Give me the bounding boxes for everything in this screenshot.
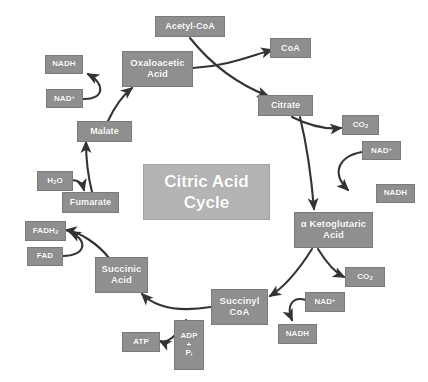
node-label: CoA xyxy=(281,43,300,53)
node-label: OxaloaceticAcid xyxy=(130,58,184,79)
node-nadh-ketoglut: NADH xyxy=(376,184,415,203)
node-label: SuccinicAcid xyxy=(102,264,142,285)
arrow-acetyl-to-citrate xyxy=(190,38,268,96)
arrow-ketoglut-to-succinyl xyxy=(270,249,312,296)
node-nadh-malate: NADH xyxy=(45,55,83,74)
node-label: CO2 xyxy=(353,121,369,130)
node-atp: ATP xyxy=(122,332,160,352)
node-label: H2O xyxy=(47,177,63,186)
node-fad: FAD xyxy=(27,247,63,266)
node-nad-ketoglut: NAD+ xyxy=(362,141,401,160)
arrow-ketoglut-to-co2 xyxy=(318,249,344,277)
arrow-citrate-to-co2 xyxy=(292,117,341,128)
node-label: NAD+ xyxy=(371,146,392,156)
arrow-succinic-to-fadh2 xyxy=(66,230,109,258)
node-label: FAD xyxy=(37,252,53,261)
node-label: ADP+Pi xyxy=(180,332,197,359)
arrow-fumarate-to-malate xyxy=(86,142,92,192)
arrow-succinyl-to-succinic xyxy=(142,294,211,309)
cycle-title: Citric Acid Cycle xyxy=(143,164,270,220)
node-succinic-acid: SuccinicAcid xyxy=(95,257,148,293)
node-adp-pi: ADP+Pi xyxy=(174,320,204,370)
node-fumarate: Fumarate xyxy=(62,192,119,213)
arrow-nad-to-nadh-right xyxy=(339,152,362,190)
node-succinyl-coa: SuccinylCoA xyxy=(211,289,268,325)
node-label: α KetoglutaricAcid xyxy=(301,219,366,240)
node-nadh-succinyl: NADH xyxy=(278,324,317,344)
node-label: NADH xyxy=(286,330,310,339)
node-nad-malate: NAD+ xyxy=(46,89,83,108)
node-h2o: H2O xyxy=(37,171,73,191)
node-acetyl-coa: Acetyl-CoA xyxy=(155,16,225,37)
arrow-malate-to-oxaloacetic xyxy=(108,88,132,121)
arrow-nad-to-nadh-bottom xyxy=(290,299,306,320)
node-label: Citrate xyxy=(271,100,300,110)
arrow-oxaloacetic-to-coa xyxy=(193,50,272,68)
node-label: NADH xyxy=(384,189,408,198)
node-citrate: Citrate xyxy=(258,95,313,116)
node-co2-succinyl: CO2 xyxy=(345,267,385,287)
node-label: Acetyl-CoA xyxy=(165,21,215,31)
node-label: Fumarate xyxy=(70,197,111,207)
node-label: NAD+ xyxy=(54,94,75,104)
node-label: Malate xyxy=(90,126,119,136)
node-label: SuccinylCoA xyxy=(220,296,260,317)
node-fadh2: FADH2 xyxy=(25,221,66,241)
node-co2-isocitrate: CO2 xyxy=(342,115,379,135)
node-alpha-ketoglut: α KetoglutaricAcid xyxy=(294,212,373,248)
citric-acid-cycle-diagram: Citric Acid Cycle Acetyl-CoACoAOxaloacet… xyxy=(0,0,428,382)
arrow-citrate-to-ketoglut xyxy=(300,117,314,209)
node-label: NAD+ xyxy=(314,297,335,307)
node-label: ATP xyxy=(133,338,149,347)
node-nad-succinyl: NAD+ xyxy=(305,292,345,312)
node-label: NADH xyxy=(52,60,76,69)
node-malate: Malate xyxy=(77,121,132,142)
arrow-nad-to-nadh-left xyxy=(83,74,100,99)
node-oxaloacetic: OxaloaceticAcid xyxy=(122,51,193,87)
node-label: FADH2 xyxy=(33,227,59,236)
node-label: CO2 xyxy=(357,273,373,282)
node-coa: CoA xyxy=(270,38,311,58)
